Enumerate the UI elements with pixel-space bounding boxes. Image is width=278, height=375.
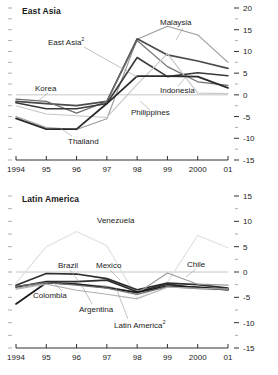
annotation-leader-line [38,93,48,101]
y-axis-tick-label: -10 [243,319,255,328]
x-axis-tick-label: 96 [72,165,81,174]
series-annotation-malaysia: Malaysia [160,18,192,27]
x-axis-tick-label: 96 [72,353,81,362]
series-annotation-mexico: Mexico [96,261,121,270]
x-axis-tick-label: 97 [102,165,111,174]
series-annotation-thailand: Thailand [68,137,99,146]
y-axis-tick-label: 0 [243,268,248,277]
series-annotation-brazil: Brazil [58,261,78,270]
chart-panel-latin-america: 19949596979899200001151050-5-10-15 Latin… [0,188,278,375]
y-axis-tick-label: 10 [243,217,252,226]
chart-panel-east-asia: 1994959697989920000120151050-5-10-15 Eas… [0,0,278,187]
y-axis-tick-label: -15 [243,344,255,353]
series-annotation-chile: Chile [187,260,205,269]
series-annotation-latin-america: Latin America2 [114,321,166,330]
y-axis-tick-label: 0 [243,91,248,100]
series-annotation-venezuela: Venezuela [97,216,134,225]
x-axis-tick-label: 95 [42,353,51,362]
x-axis-tick-label: 1994 [7,165,25,174]
annotation-leader-line [178,77,186,86]
x-axis-tick-label: 01 [224,353,233,362]
y-axis-tick-label: -15 [243,156,255,165]
series-annotation-argentina: Argentina [79,305,113,314]
x-axis-tick-label: 98 [133,165,142,174]
y-axis-tick-label: 5 [243,243,248,252]
x-axis-tick-label: 95 [42,165,51,174]
y-axis-tick-label: 5 [243,69,248,78]
x-axis-tick-label: 01 [224,165,233,174]
annotation-leader-line [110,270,120,280]
series-annotation-korea: Korea [35,84,56,93]
y-axis-tick-label: -10 [243,134,255,143]
x-axis-tick-label: 99 [163,353,172,362]
series-annotation-colombia: Colombia [33,291,67,300]
east-asia-plot: 1994959697989920000120151050-5-10-15 [0,0,278,187]
latin-america-plot: 19949596979899200001151050-5-10-15 [0,188,278,375]
page-title-east-asia: East Asia [22,6,61,16]
page-title-latin-america: Latin America [22,194,79,204]
y-axis-tick-label: -5 [243,113,251,122]
series-annotation-east-asia: East Asia2 [48,38,84,47]
annotation-leader-line [82,286,92,304]
annotation-leader-line [186,269,196,277]
y-axis-tick-label: 20 [243,4,252,13]
y-axis-tick-label: 10 [243,47,252,56]
x-axis-tick-label: 99 [163,165,172,174]
y-axis-tick-label: 15 [243,192,252,201]
x-axis-tick-label: 1994 [7,353,25,362]
x-axis-tick-label: 2000 [189,165,207,174]
x-axis-tick-label: 97 [102,353,111,362]
x-axis-tick-label: 98 [133,353,142,362]
y-axis-tick-label: 15 [243,26,252,35]
series-annotation-philippines: Philippines [131,108,170,117]
figure-root: 1994959697989920000120151050-5-10-15 Eas… [0,0,278,375]
x-axis-tick-label: 2000 [189,353,207,362]
y-axis-tick-label: -5 [243,293,251,302]
series-annotation-indonesia: Indonesia [160,86,195,95]
